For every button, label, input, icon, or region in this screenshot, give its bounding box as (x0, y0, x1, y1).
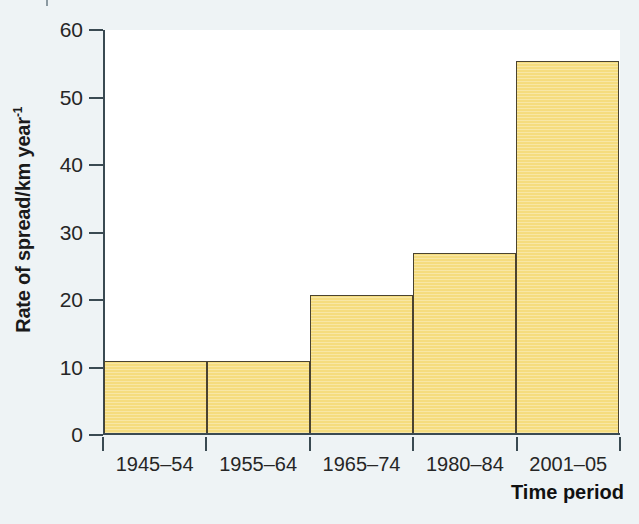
bar-slot (311, 30, 414, 433)
x-tick-mark (102, 437, 104, 451)
y-tick-label: 40 (39, 153, 83, 177)
y-axis-title-exponent: -1 (11, 107, 25, 117)
corner-artifact (46, 0, 59, 6)
y-tick-mark (89, 434, 103, 436)
bar-chart-figure: Rate of spread/km year-1 0102030405060 1… (0, 0, 639, 524)
y-tick-mark (89, 299, 103, 301)
x-tick-mark (205, 437, 207, 451)
x-tick-mark (516, 437, 518, 451)
y-tick-mark (89, 29, 103, 31)
plot-area (103, 30, 620, 435)
y-tick-mark (89, 367, 103, 369)
bar[interactable] (104, 361, 207, 433)
y-tick-label: 30 (39, 221, 83, 245)
x-tick-label: 1980–84 (405, 453, 525, 476)
x-tick-mark (412, 437, 414, 451)
bar[interactable] (413, 253, 516, 433)
bar[interactable] (207, 361, 310, 433)
bar[interactable] (310, 295, 413, 433)
y-axis-title-text: Rate of spread/km year (12, 117, 34, 333)
x-axis-title: Time period (0, 481, 624, 504)
bar-slot (414, 30, 517, 433)
y-tick-label: 10 (39, 356, 83, 380)
y-tick-mark (89, 97, 103, 99)
x-tick-label: 2001–05 (508, 453, 628, 476)
bar[interactable] (516, 61, 619, 433)
bar-slot (208, 30, 311, 433)
x-tick-mark (619, 437, 621, 451)
y-tick-mark (89, 164, 103, 166)
x-tick-label: 1945–54 (95, 453, 215, 476)
y-tick-label: 0 (39, 423, 83, 447)
bar-slot (517, 30, 620, 433)
y-tick-label: 20 (39, 288, 83, 312)
bar-slot (105, 30, 208, 433)
x-tick-label: 1955–64 (198, 453, 318, 476)
bar-series (105, 30, 620, 433)
y-tick-label: 60 (39, 18, 83, 42)
x-tick-mark (309, 437, 311, 451)
y-tick-label: 50 (39, 86, 83, 110)
y-tick-mark (89, 232, 103, 234)
x-tick-label: 1965–74 (302, 453, 422, 476)
